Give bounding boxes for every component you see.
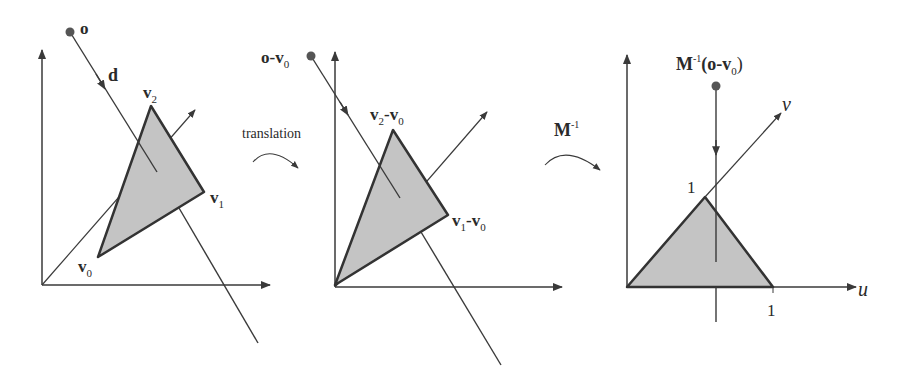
ray-origin-point: [66, 28, 75, 37]
panel-translated: o-v0 v2-v0 v1-v0: [261, 48, 562, 365]
label-u-axis: u: [858, 278, 868, 300]
panel-original: o d v2 v1 v0: [42, 19, 270, 343]
ray-exit: [421, 232, 501, 365]
triangle: [627, 197, 773, 287]
label-v1-minus-v0: v1-v0: [452, 211, 486, 233]
direction-arrow: [340, 102, 348, 115]
label-v1: v1: [210, 188, 224, 210]
label-v0: v0: [78, 257, 93, 279]
label-v2: v2: [143, 83, 157, 105]
tick-label-u: 1: [767, 301, 776, 320]
label-d: d: [108, 65, 118, 85]
ray-triangle-diagram: o d v2 v1 v0 translation o-v0 v2-v0 v1-v…: [0, 0, 906, 387]
ray: [70, 32, 157, 172]
ray-origin-point: [712, 82, 721, 91]
inverse-matrix-label: M-1: [554, 119, 579, 140]
transition-inverse-matrix: M-1: [545, 119, 600, 170]
direction-arrow: [96, 74, 105, 89]
transition-translation: translation: [242, 126, 301, 168]
translation-label: translation: [242, 126, 301, 141]
ray: [311, 56, 400, 198]
curved-arrow: [545, 155, 600, 170]
label-o-minus-v0: o-v0: [261, 48, 290, 70]
curved-arrow: [253, 154, 298, 168]
label-v2-minus-v0: v2-v0: [370, 105, 404, 127]
label-transformed-origin: M-1(o-v0): [676, 53, 743, 77]
triangle: [98, 106, 204, 257]
label-o: o: [80, 19, 89, 38]
ray-exit: [179, 208, 258, 343]
panel-transformed: M-1(o-v0) v u 1 1: [627, 53, 868, 322]
label-v-axis: v: [782, 93, 791, 115]
ray-origin-point: [307, 52, 316, 61]
tick-label-v: 1: [687, 178, 696, 197]
triangle: [335, 130, 448, 285]
